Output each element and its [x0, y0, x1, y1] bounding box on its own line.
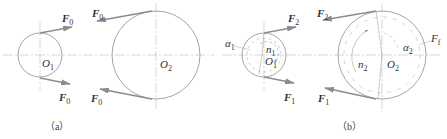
label-o1-b: O1 — [265, 56, 277, 71]
label-f0-small-bottom: F0 — [59, 92, 70, 107]
label-n2: n2 — [358, 59, 368, 74]
panel-b — [222, 3, 441, 112]
alpha1-leader — [234, 46, 250, 50]
label-f2-small: F2 — [288, 13, 299, 28]
panel-a — [3, 3, 214, 110]
force-arrow-f1-small — [264, 77, 294, 83]
caption-a: （a） — [45, 118, 69, 133]
force-arrow-f0-large-top — [97, 11, 152, 21]
label-alpha2: α2 — [403, 42, 413, 57]
label-o2-b: O2 — [387, 59, 399, 74]
force-arrow-f1-large — [325, 88, 376, 99]
label-f0-large-bottom: F0 — [91, 93, 102, 108]
label-f1-large: F1 — [318, 93, 329, 108]
label-o1-a: O1 — [42, 58, 54, 73]
label-o2-a: O2 — [160, 59, 172, 74]
force-arrow-f0-small-bottom — [40, 78, 70, 84]
label-f1-small: F1 — [284, 92, 295, 107]
label-f0-small-top: F0 — [62, 13, 73, 28]
inner-arc-right — [384, 33, 398, 48]
label-alpha1: α1 — [225, 38, 235, 53]
force-arrow-f2-large — [323, 11, 376, 20]
wrap-boundary-large-top — [376, 11, 382, 55]
wrap-boundary-small-2 — [259, 55, 262, 74]
label-f2-large: F2 — [317, 8, 328, 23]
wrap-boundary-large-bottom — [378, 55, 382, 99]
label-ff: Ff — [431, 33, 440, 48]
label-f0-large-top: F0 — [92, 8, 103, 23]
caption-b: （b） — [337, 118, 362, 133]
belt-drive-figure: F0 F0 F0 F0 O1 O2 （a） F2 F1 F2 F1 α1 n1 … — [0, 0, 447, 139]
force-arrow-f0-large-bottom — [100, 89, 152, 99]
